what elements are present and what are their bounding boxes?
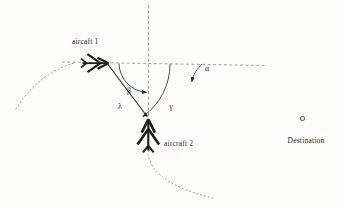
- alpha-angle-arc: [192, 64, 202, 81]
- figure-canvas: aircaft 1 aircraft 2 Destination β λ γ α: [0, 0, 342, 207]
- destination-circle-icon: [300, 116, 304, 120]
- aircraft1-icon: [81, 54, 109, 72]
- aircraft2-trajectory-curve: [148, 154, 213, 198]
- aircraft2-label: aircraft 2: [164, 139, 193, 148]
- aircraft2-icon: [138, 119, 160, 152]
- beta-angle-label: β: [127, 86, 131, 95]
- destination-label: Destination: [288, 136, 325, 145]
- lambda-distance-label: λ: [118, 102, 122, 111]
- conflict-geometry-figure: aircaft 1 aircraft 2 Destination β λ γ α: [0, 0, 342, 207]
- alpha-angle-label: α: [205, 64, 210, 73]
- gamma-angle-arc: [143, 64, 170, 117]
- aircraft1-trajectory-curve: [16, 63, 76, 110]
- aircraft1-label: aircaft 1: [72, 37, 99, 46]
- gamma-angle-label: γ: [168, 102, 173, 111]
- beta-angle-arc: [119, 64, 146, 93]
